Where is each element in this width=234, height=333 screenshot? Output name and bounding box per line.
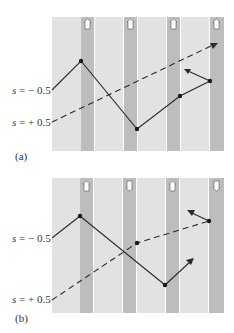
- magnetic-layer-2: [124, 17, 137, 151]
- magnetic-layer-4: [210, 17, 224, 151]
- panel-b: s = − 0.5 s = + 0.5 (b): [0, 165, 234, 333]
- label-spin-plus: s = + 0.5: [12, 116, 51, 128]
- multilayer-diagram-a: [0, 0, 234, 165]
- magnetic-layer-3: [167, 17, 180, 151]
- panel-a: s = − 0.5 s = + 0.5 (a): [0, 0, 234, 165]
- multilayer-diagram-b: [0, 165, 234, 333]
- magnetic-layer-1: [81, 17, 94, 151]
- label-spin-minus: s = − 0.5: [12, 232, 51, 244]
- caption-b: (b): [15, 312, 28, 324]
- label-spin-plus: s = + 0.5: [12, 293, 51, 305]
- label-spin-minus: s = − 0.5: [12, 84, 51, 96]
- caption-a: (a): [15, 150, 27, 162]
